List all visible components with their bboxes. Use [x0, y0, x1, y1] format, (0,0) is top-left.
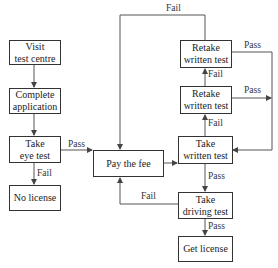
node-no-license: No license [9, 185, 61, 211]
edge-label-retake2-pass: Pass [244, 40, 261, 50]
edge-label-retake1-pass: Pass [244, 85, 261, 95]
edge-label-retake2-fail: Fail [166, 3, 181, 13]
edge-label-retake1-fail: Fail [208, 69, 223, 79]
node-visit-test-centre: Visit test centre [9, 40, 61, 65]
node-take-eye-test: Take eye test [9, 136, 61, 163]
node-retake-written-test-1: Retake written test [180, 86, 232, 114]
edge-label-eye-pass: Pass [68, 139, 85, 149]
edge-label-written-pass: Pass [208, 171, 225, 181]
node-pay-the-fee: Pay the fee [93, 150, 164, 177]
node-retake-written-test-2: Retake written test [180, 40, 232, 68]
node-take-written-test: Take written test [178, 136, 233, 164]
node-complete-application: Complete application [9, 88, 61, 114]
edge-label-driving-pass: Pass [208, 221, 225, 231]
edge-label-eye-fail: Fail [37, 168, 52, 178]
edge-label-driving-fail: Fail [141, 191, 156, 201]
node-get-license: Get license [178, 236, 233, 262]
node-take-driving-test: Take driving test [178, 192, 233, 219]
edge-label-written-fail: Fail [208, 118, 223, 128]
